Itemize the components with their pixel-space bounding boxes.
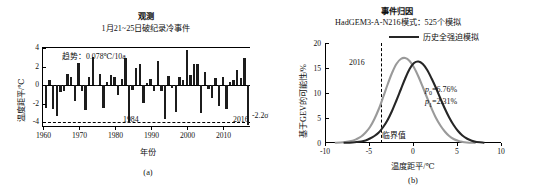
panel-a-trend-annotation: 趋势：0.078℃/10a bbox=[62, 50, 126, 61]
bar-2014 bbox=[240, 78, 242, 85]
bar-2011 bbox=[229, 82, 231, 85]
bar-1966 bbox=[66, 74, 68, 85]
bar-1975 bbox=[99, 74, 101, 85]
bar-1998 bbox=[182, 80, 184, 86]
panel-a-ytickmark bbox=[43, 85, 46, 86]
panel-a-xtick-1990: 1990 bbox=[137, 131, 166, 140]
bar-2004 bbox=[204, 72, 206, 85]
panel-a-xtick-1980: 1980 bbox=[101, 131, 130, 140]
bar-1993 bbox=[164, 85, 166, 118]
panel-b-p1-annotation: p1=2.31% bbox=[425, 97, 457, 108]
bar-1994 bbox=[167, 76, 169, 85]
bar-1984 bbox=[131, 85, 133, 90]
panel-a-ytickmark bbox=[43, 48, 46, 49]
curve-full-forcing bbox=[344, 61, 485, 142]
bar-1964 bbox=[59, 85, 61, 92]
bar-1970 bbox=[81, 85, 83, 91]
bar-1979 bbox=[113, 77, 115, 85]
panel-a-ytick-m4: -4 bbox=[22, 117, 39, 126]
bar-1982 bbox=[124, 58, 126, 85]
panel-a-xtickmark bbox=[151, 127, 152, 130]
bar-2005 bbox=[207, 85, 209, 89]
figure-root: 观测 1月21~25日破纪录冷事件 温度距平/℃ 4 2 0 -2 -4 趋势：… bbox=[0, 0, 545, 190]
panel-a-xtick-1970: 1970 bbox=[65, 131, 94, 140]
bar-2006 bbox=[211, 85, 213, 98]
panel-a-title: 观测 bbox=[42, 12, 250, 22]
bar-1987 bbox=[142, 85, 144, 103]
bar-1977 bbox=[106, 82, 108, 85]
legend-item-full-forcing: 历史全强迫模拟 bbox=[389, 31, 479, 42]
panel-b-ylabel: 基于GEV的可能性/% bbox=[296, 64, 308, 138]
bar-2009 bbox=[222, 77, 224, 85]
panel-b-ytick-15: 15 bbox=[303, 64, 321, 73]
panel-a-subtitle: 1月21~25日破纪录冷事件 bbox=[22, 24, 270, 34]
panel-a-annotation-1984: 1984 bbox=[123, 115, 139, 124]
bar-1976 bbox=[102, 85, 104, 108]
panel-a-ytickmark bbox=[43, 67, 46, 68]
panel-a-ytickmark bbox=[43, 104, 46, 105]
bar-1972 bbox=[88, 77, 90, 85]
panel-b-threshold-label: 临界值 bbox=[382, 129, 406, 140]
panel-a-xlabel: 年份 bbox=[108, 145, 188, 157]
panel-b-ytick-20: 20 bbox=[303, 39, 321, 48]
p0-value: =6.76% bbox=[432, 85, 457, 94]
bar-1973 bbox=[92, 57, 94, 85]
panel-a-xtickmark bbox=[187, 127, 188, 130]
bar-1978 bbox=[110, 75, 112, 85]
panel-a-ytick-0: 0 bbox=[22, 80, 39, 89]
panel-b-xtickmark bbox=[457, 143, 458, 146]
bar-2001 bbox=[193, 64, 195, 85]
panel-a-xtickmark bbox=[79, 127, 80, 130]
bar-1974 bbox=[95, 85, 97, 86]
legend-label-full-forcing: 历史全强迫模拟 bbox=[423, 31, 479, 42]
panel-b-ytick-10: 10 bbox=[303, 89, 321, 98]
panel-a-ytickmark bbox=[43, 122, 46, 123]
panel-a-ytick-m2: -2 bbox=[22, 99, 39, 108]
bar-2012 bbox=[232, 80, 234, 86]
panel-b-xtickmark bbox=[325, 143, 326, 146]
panel-b-ytick-5: 5 bbox=[303, 114, 321, 123]
panel-b-xtick-5: 5 bbox=[444, 147, 470, 156]
bar-1969 bbox=[77, 63, 79, 85]
panel-b: 事件归因 HadGEM3-A-N216模式：525个模拟 历史全强迫模拟 历史自… bbox=[272, 0, 545, 190]
bar-1985 bbox=[135, 68, 137, 85]
panel-b-xtick-m5: -5 bbox=[356, 147, 382, 156]
panel-a-ytick-4: 4 bbox=[22, 43, 39, 52]
panel-a-sigma-annotation: -2.2σ bbox=[252, 111, 269, 120]
bar-1989 bbox=[149, 79, 151, 86]
bar-1992 bbox=[160, 85, 162, 91]
bar-1997 bbox=[178, 77, 180, 85]
panel-a-annotation-2016: 2016 bbox=[233, 115, 249, 124]
bar-1965 bbox=[63, 85, 65, 91]
bar-1963 bbox=[56, 85, 58, 116]
bar-1990 bbox=[153, 85, 155, 91]
panel-b-label: (b) bbox=[383, 176, 443, 185]
panel-b-subtitle: HadGEM3-A-N216模式：525个模拟 bbox=[284, 18, 512, 28]
panel-b-xtickmark bbox=[369, 143, 370, 146]
legend-swatch-full-forcing bbox=[389, 36, 419, 38]
bar-1999 bbox=[186, 50, 188, 85]
panel-b-xtickmark bbox=[413, 143, 414, 146]
panel-b-p0-annotation: p0=6.76% bbox=[425, 85, 457, 96]
bar-1981 bbox=[121, 79, 123, 86]
bar-2007 bbox=[214, 78, 216, 85]
bar-2010 bbox=[225, 85, 227, 109]
panel-b-xlabel: 温度距平/℃ bbox=[373, 159, 453, 171]
bar-2015 bbox=[243, 58, 245, 85]
panel-b-xtick-10: 10 bbox=[488, 147, 514, 156]
panel-a-xtick-2010: 2010 bbox=[209, 131, 238, 140]
bar-1968 bbox=[74, 85, 76, 101]
bar-1996 bbox=[175, 85, 177, 112]
panel-a-xtick-2000: 2000 bbox=[173, 131, 202, 140]
panel-b-xtick-m10: -10 bbox=[312, 147, 338, 156]
panel-a-label: (a) bbox=[118, 168, 178, 177]
bar-1986 bbox=[139, 64, 141, 85]
panel-a-xtickmark bbox=[115, 127, 116, 130]
bar-1995 bbox=[171, 85, 173, 88]
panel-a-xtickmark bbox=[223, 127, 224, 130]
bar-2008 bbox=[218, 85, 220, 105]
bar-1967 bbox=[70, 77, 72, 85]
panel-b-xtickmark bbox=[501, 143, 502, 146]
p1-value: =2.31% bbox=[432, 97, 457, 106]
bar-1988 bbox=[146, 83, 148, 85]
